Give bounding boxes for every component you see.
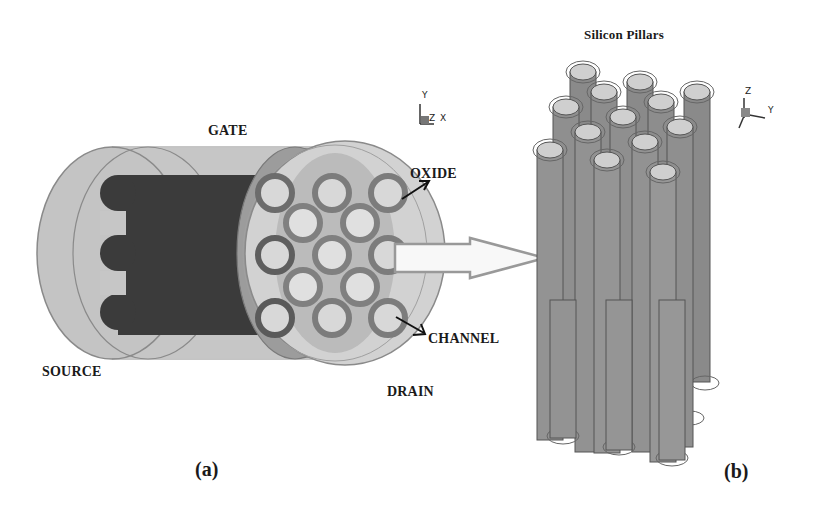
axis-triad-b	[739, 98, 765, 128]
axis-a-y: Y	[422, 90, 428, 100]
source-label: SOURCE	[42, 364, 102, 380]
silicon-pillars-title: Silicon Pillars	[584, 27, 664, 43]
pillar-array	[258, 176, 405, 335]
axis-a-x: X	[440, 113, 446, 123]
axis-a-z: Z	[429, 113, 435, 123]
device-diagram	[0, 0, 813, 511]
drain-label: DRAIN	[387, 384, 434, 400]
zoom-callout-arrow	[395, 238, 545, 278]
axis-b-z: Z	[745, 86, 751, 96]
panel-a-label: (a)	[195, 458, 218, 481]
silicon-pillars	[533, 61, 719, 466]
gate-label: GATE	[208, 123, 247, 139]
channel-label: CHANNEL	[428, 331, 499, 347]
axis-b-y: Y	[768, 105, 774, 115]
oxide-label: OXIDE	[410, 166, 457, 182]
panel-b-label: (b)	[724, 460, 748, 483]
